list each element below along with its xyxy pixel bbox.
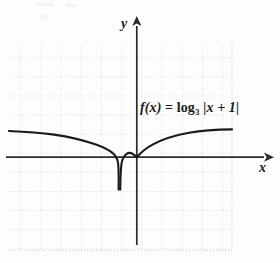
grid-lines: [9, 43, 232, 250]
x-axis-label: x: [259, 160, 266, 176]
plot-canvas: [0, 0, 280, 263]
logarithm-graph-figure: y x f(x) = log3 |x + 1|: [0, 0, 280, 263]
function-annotation-argument: |x + 1|: [203, 100, 239, 115]
function-annotation-equals: =: [161, 100, 176, 115]
function-annotation-base: 3: [195, 107, 200, 117]
function-annotation-arg: (x): [145, 100, 162, 115]
function-annotation: f(x) = log3 |x + 1|: [140, 100, 239, 117]
y-axis-arrowhead: [132, 16, 141, 26]
y-axis-label: y: [121, 16, 127, 32]
function-annotation-log: log: [177, 100, 195, 115]
